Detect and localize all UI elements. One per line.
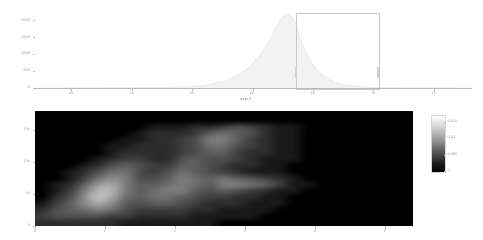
heatmap-y-tick-label-3: 15k — [10, 128, 30, 132]
heatmap-y-tick-1 — [33, 194, 36, 195]
histogram-series — [35, 12, 470, 88]
histogram-y-tick-1 — [33, 71, 36, 72]
histogram-x-tick-label-4: 65 — [308, 92, 318, 96]
colorbar[interactable] — [431, 115, 446, 173]
heatmap-x-tick-label-3: 3 — [240, 230, 250, 234]
histogram-x-tick-label-3: 60 — [248, 92, 258, 96]
histogram-y-tick-0 — [33, 88, 36, 89]
heatmap-x-tick-label-0: 0 — [30, 230, 40, 234]
colorbar-tick-0 — [444, 171, 446, 172]
histogram-y-tick-label-0: 0 — [8, 86, 30, 90]
histogram-x-tick-label-0: 45 — [66, 92, 76, 96]
histogram-x-tick-label-1: 50 — [127, 92, 137, 96]
histogram-x-axis-title: depth — [240, 97, 251, 101]
histogram-plot-area[interactable] — [35, 12, 470, 88]
heatmap-y-tick-3 — [33, 130, 36, 131]
histogram-y-tick-3 — [33, 37, 36, 38]
histogram-y-tick-4 — [33, 20, 36, 21]
colorbar-tick-2 — [444, 138, 446, 139]
histogram-x-axis — [35, 88, 472, 89]
colorbar-tick-label-3: 0.015 — [448, 120, 458, 124]
histogram-y-tick-label-1: 500 — [8, 69, 30, 73]
selection-handle-left[interactable] — [295, 67, 297, 78]
heatmap-x-tick-label-4: 4 — [310, 230, 320, 234]
heatmap-y-tick-label-1: 5k — [10, 192, 30, 196]
histogram-x-tick-label-2: 55 — [187, 92, 197, 96]
heatmap-y-tick-label-2: 10k — [10, 160, 30, 164]
histogram-y-tick-label-4: 2000 — [8, 19, 30, 23]
histogram-panel: 0500100015002000 45505560657075 depth — [0, 0, 483, 104]
heatmap-y-tick-label-0: 0 — [10, 224, 30, 228]
heatmap-x-tick-label-5: 5 — [380, 230, 390, 234]
heatmap-panel: 05k10k15k 012345 00.0050.010.015 — [0, 104, 483, 240]
histogram-y-tick-2 — [33, 54, 36, 55]
heatmap-x-tick-label-1: 1 — [100, 230, 110, 234]
colorbar-tick-label-0: 0 — [448, 169, 450, 173]
histogram-x-tick-label-5: 70 — [368, 92, 378, 96]
histogram-y-tick-label-3: 1500 — [8, 36, 30, 40]
colorbar-tick-1 — [444, 155, 446, 156]
heatmap-x-tick-label-2: 2 — [170, 230, 180, 234]
histogram-x-tick-label-6: 75 — [429, 92, 439, 96]
heatmap-plot-area[interactable] — [35, 111, 413, 226]
heatmap-y-tick-2 — [33, 162, 36, 163]
histogram-y-tick-label-2: 1000 — [8, 52, 30, 56]
colorbar-tick-label-1: 0.005 — [448, 153, 458, 157]
selection-handle-right[interactable] — [377, 67, 379, 78]
colorbar-tick-label-2: 0.01 — [448, 136, 456, 140]
heatmap-image — [35, 111, 413, 226]
colorbar-tick-3 — [444, 122, 446, 123]
selection-rectangle[interactable] — [296, 13, 380, 90]
figure-root: 0500100015002000 45505560657075 depth 05… — [0, 0, 483, 240]
